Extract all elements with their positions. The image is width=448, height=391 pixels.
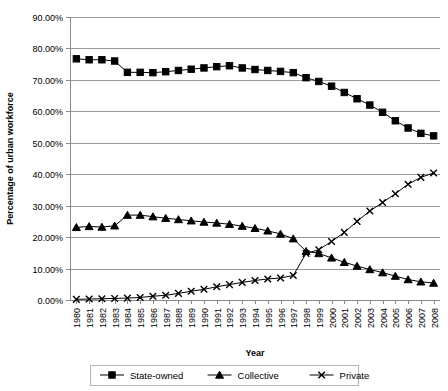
marker-square — [290, 69, 296, 75]
marker-square — [111, 58, 117, 64]
y-tick-label: 50.00% — [32, 139, 63, 149]
x-tick-label: 1995 — [264, 308, 274, 328]
marker-square — [162, 69, 168, 75]
y-tick-label: 90.00% — [32, 13, 63, 23]
x-tick-label: 1997 — [289, 308, 299, 328]
marker-square — [367, 102, 373, 108]
marker-square — [379, 109, 385, 115]
x-tick-label: 2003 — [366, 308, 376, 328]
x-tick-label: 1996 — [277, 308, 287, 328]
x-tick-label: 1999 — [315, 308, 325, 328]
marker-square — [109, 372, 115, 378]
x-tick-label: 2001 — [340, 308, 350, 328]
y-tick-label: 10.00% — [32, 265, 63, 275]
x-tick-label: 2004 — [379, 308, 389, 328]
marker-square — [430, 133, 436, 139]
chart-legend: State-ownedCollectivePrivate — [91, 366, 370, 386]
x-tick-label: 1993 — [238, 308, 248, 328]
x-tick-label: 2002 — [353, 308, 363, 328]
y-tick-label: 30.00% — [32, 202, 63, 212]
marker-square — [418, 130, 424, 136]
x-tick-label: 1992 — [225, 308, 235, 328]
marker-square — [328, 83, 334, 89]
marker-square — [150, 69, 156, 75]
legend-label: Private — [340, 370, 370, 381]
y-tick-label: 70.00% — [32, 76, 63, 86]
marker-square — [124, 69, 130, 75]
marker-square — [392, 118, 398, 124]
y-tick-label: 40.00% — [32, 170, 63, 180]
y-tick-label: 20.00% — [32, 233, 63, 243]
marker-square — [316, 78, 322, 84]
x-tick-label: 1983 — [111, 308, 121, 328]
x-tick-label: 2008 — [430, 308, 440, 328]
y-tick-label: 80.00% — [32, 44, 63, 54]
marker-square — [99, 57, 105, 63]
x-tick-label: 1982 — [98, 308, 108, 328]
marker-square — [73, 56, 79, 62]
marker-square — [86, 57, 92, 63]
x-axis-title: Year — [245, 348, 265, 358]
x-tick-label: 1994 — [251, 308, 261, 328]
marker-square — [239, 65, 245, 71]
x-tick-label: 1985 — [136, 308, 146, 328]
x-tick-label: 1998 — [302, 308, 312, 328]
x-tick-label: 1984 — [123, 308, 133, 328]
marker-square — [226, 63, 232, 69]
chart-background — [0, 0, 448, 391]
x-tick-label: 1990 — [200, 308, 210, 328]
x-tick-label: 1981 — [85, 308, 95, 328]
marker-square — [354, 96, 360, 102]
marker-square — [405, 125, 411, 131]
line-chart: 90.00%80.00%70.00%60.00%50.00%40.00%30.0… — [0, 0, 448, 391]
marker-square — [175, 67, 181, 73]
x-tick-label: 1986 — [149, 308, 159, 328]
x-tick-label: 2007 — [417, 308, 427, 328]
y-tick-label: 0.00% — [37, 296, 63, 306]
y-tick-label: 60.00% — [32, 107, 63, 117]
marker-square — [265, 67, 271, 73]
chart-container: 90.00%80.00%70.00%60.00%50.00%40.00%30.0… — [0, 0, 448, 391]
x-tick-label: 1988 — [174, 308, 184, 328]
x-tick-label: 2006 — [404, 308, 414, 328]
x-tick-label: 1991 — [213, 308, 223, 328]
marker-square — [214, 63, 220, 69]
x-tick-label: 1980 — [72, 308, 82, 328]
marker-square — [277, 68, 283, 74]
marker-square — [341, 89, 347, 95]
y-axis-title: Percentage of urban workforce — [5, 92, 15, 225]
marker-square — [252, 66, 258, 72]
marker-square — [188, 66, 194, 72]
x-tick-label: 1987 — [162, 308, 172, 328]
x-axis-tick-labels: 1980198119821983198419851986198719881989… — [72, 308, 440, 328]
legend-label: Collective — [238, 370, 279, 381]
legend-label: State-owned — [130, 370, 183, 381]
marker-square — [303, 74, 309, 80]
marker-square — [137, 69, 143, 75]
x-tick-label: 2000 — [328, 308, 338, 328]
marker-square — [201, 65, 207, 71]
x-tick-label: 1989 — [187, 308, 197, 328]
x-tick-label: 2005 — [391, 308, 401, 328]
